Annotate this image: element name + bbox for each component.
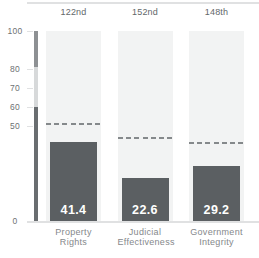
- category-label-line: Rights: [46, 238, 101, 248]
- world-average-dash: [46, 123, 101, 125]
- y-tick-label: 100: [4, 26, 26, 36]
- score-value-label: 22.6: [122, 203, 169, 217]
- indicator-bar-chart: 100807060500 122nd41.4PropertyRights152n…: [0, 0, 259, 258]
- category-label: PropertyRights: [46, 228, 101, 247]
- baseline-rule: [27, 221, 259, 223]
- score-value-label: 29.2: [193, 203, 240, 217]
- y-axis-segment: [34, 31, 38, 67]
- y-tick-label: 70: [4, 83, 26, 93]
- score-bar: 22.6: [122, 178, 169, 221]
- world-average-dash: [189, 142, 244, 144]
- score-bar: 29.2: [193, 166, 240, 221]
- y-axis: 100807060500: [0, 0, 40, 258]
- rank-label: 148th: [189, 7, 244, 19]
- y-tick-mark: [27, 107, 33, 108]
- y-tick-label: 0: [4, 216, 26, 226]
- category-label: JudicialEffectiveness: [118, 228, 173, 247]
- y-tick-mark: [27, 31, 33, 32]
- y-axis-segment: [34, 67, 38, 107]
- category-label-line: Effectiveness: [118, 238, 173, 248]
- world-average-dash: [118, 137, 173, 139]
- rank-label: 122nd: [46, 7, 101, 19]
- score-value-label: 41.4: [50, 203, 97, 217]
- rank-label: 152nd: [118, 7, 173, 19]
- y-tick-mark: [27, 69, 33, 70]
- y-tick-label: 80: [4, 64, 26, 74]
- y-tick-label: 50: [4, 121, 26, 131]
- y-tick-mark: [27, 88, 33, 89]
- y-tick-label: 60: [4, 102, 26, 112]
- y-axis-segment: [34, 107, 38, 221]
- category-label: GovernmentIntegrity: [189, 228, 244, 247]
- score-bar: 41.4: [50, 142, 97, 221]
- category-label-line: Integrity: [189, 238, 244, 248]
- y-tick-mark: [27, 126, 33, 127]
